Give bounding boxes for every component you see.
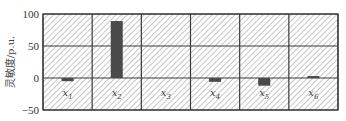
sensitivity-bar-chart: 100500−50 x1x2x3x4x5x6 灵敏度/p.u.	[0, 0, 346, 121]
y-axis-label: 灵敏度/p.u.	[4, 36, 16, 89]
y-tick-label: 50	[28, 40, 40, 52]
bar-x4	[209, 78, 221, 82]
y-tick-label: 0	[34, 72, 40, 84]
y-tick-label: 100	[23, 8, 40, 20]
bar-x6	[307, 76, 319, 78]
bar-x1	[62, 78, 74, 81]
y-axis-ticks: 100500−50	[22, 8, 40, 116]
bar-x5	[258, 78, 270, 86]
plot-area	[43, 14, 338, 110]
y-tick-label: −50	[22, 104, 40, 116]
bar-x2	[111, 21, 123, 78]
